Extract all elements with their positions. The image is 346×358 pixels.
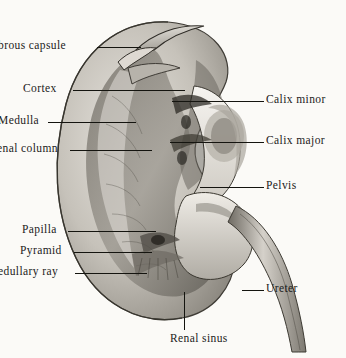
leader-calix-minor [172,101,264,102]
leader-cortex [73,90,185,91]
label-medulla: Medulla [0,115,39,127]
label-cortex: Cortex [23,83,57,95]
leader-pelvis [200,187,264,188]
leader-ureter [242,290,264,291]
leader-calix-major [170,142,264,143]
label-ureter: Ureter [266,283,298,295]
leader-renal-column [70,150,152,151]
label-medullary-ray: edullary ray [0,266,58,278]
leader-renal-sinus [184,292,185,330]
label-calix-minor: Calix minor [266,94,326,106]
leader-medullary-ray [75,273,147,274]
label-calix-major: Calix major [266,135,325,147]
leader-medulla [48,122,136,123]
label-renal-column: enal column [0,143,58,155]
renal-pelvis [175,193,253,280]
label-pelvis: Pelvis [266,180,297,192]
label-renal-sinus: Renal sinus [170,333,228,345]
label-pyramid: Pyramid [20,245,62,257]
label-papilla: Papilla [22,224,57,236]
label-fibrous-capsule: brous capsule [0,40,66,52]
ureter [228,206,306,352]
leader-fibrous-capsule [97,47,141,48]
leader-papilla [68,231,156,232]
leader-pyramid [74,252,152,253]
kidney-figure: brous capsule Cortex Medulla enal column… [0,0,346,358]
